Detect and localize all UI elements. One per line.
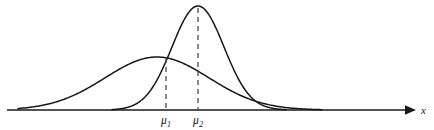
mu2-label: μ2 bbox=[192, 114, 203, 129]
x-axis-arrowhead bbox=[405, 105, 416, 115]
mu2-subscript: 2 bbox=[199, 120, 203, 129]
narrow-normal-curve bbox=[112, 6, 286, 110]
x-axis-label: x bbox=[420, 104, 426, 116]
figure-canvas: x μ1 μ2 bbox=[0, 0, 434, 130]
normal-distributions-figure: x μ1 μ2 bbox=[0, 0, 434, 130]
wide-normal-curve bbox=[18, 57, 322, 110]
mu1-label: μ1 bbox=[160, 114, 171, 129]
mu1-subscript: 1 bbox=[167, 120, 171, 129]
